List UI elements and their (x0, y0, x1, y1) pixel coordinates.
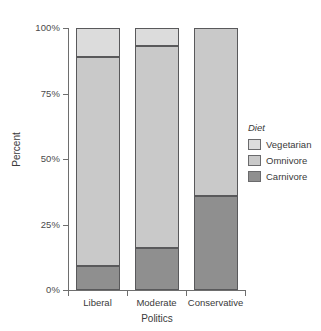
legend-title: Diet (248, 122, 321, 133)
y-axis-tick-label: 25% (41, 219, 60, 230)
bar-segment-carnivore[interactable] (76, 266, 120, 290)
x-axis-tick (68, 291, 69, 296)
legend-item-label: Carnivore (266, 171, 307, 182)
legend-item-label: Omnivore (266, 155, 307, 166)
bar-group[interactable] (194, 28, 238, 290)
x-axis-tick (245, 291, 246, 296)
y-axis-title: Percent (11, 115, 22, 185)
bar-segment-vegetarian[interactable] (135, 28, 179, 46)
legend-item[interactable]: Vegetarian (248, 139, 321, 150)
bar-segment-vegetarian[interactable] (76, 28, 120, 57)
plot-area (68, 28, 245, 290)
y-axis-tick-label: 75% (41, 88, 60, 99)
legend: Diet VegetarianOmnivoreCarnivore (248, 122, 321, 187)
legend-entries: VegetarianOmnivoreCarnivore (248, 139, 321, 182)
x-axis-title: Politics (68, 313, 246, 324)
legend-swatch-icon (248, 155, 261, 166)
x-axis-tick-label: Conservative (186, 297, 245, 308)
x-axis-tick (127, 291, 128, 296)
bar-segment-carnivore[interactable] (135, 248, 179, 290)
y-axis-tick-labels: 100%75%50%25%0% (0, 0, 60, 331)
y-axis-tick-label: 0% (46, 284, 60, 295)
bar-segment-omnivore[interactable] (194, 28, 238, 196)
x-axis-tick-label: Moderate (127, 297, 186, 308)
x-axis-tick (186, 291, 187, 296)
legend-item[interactable]: Carnivore (248, 171, 321, 182)
x-axis-tick-label: Liberal (68, 297, 127, 308)
y-axis-tick-label: 50% (41, 153, 60, 164)
y-axis-tick-label: 100% (35, 22, 60, 33)
bar-group[interactable] (76, 28, 120, 290)
x-axis-line (68, 290, 246, 291)
legend-swatch-icon (248, 171, 261, 182)
legend-swatch-icon (248, 139, 261, 150)
bar-segment-omnivore[interactable] (76, 57, 120, 267)
legend-item[interactable]: Omnivore (248, 155, 321, 166)
legend-item-label: Vegetarian (266, 139, 311, 150)
bar-segment-carnivore[interactable] (194, 196, 238, 290)
chart-canvas: 100%75%50%25%0% Percent LiberalModerateC… (0, 0, 321, 331)
bar-group[interactable] (135, 28, 179, 290)
bar-segment-omnivore[interactable] (135, 46, 179, 248)
